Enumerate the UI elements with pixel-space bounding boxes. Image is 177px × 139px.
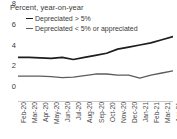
y-tick-label: 4 [2,42,16,50]
x-tick-label: Dec-20 [132,102,139,123]
chart-title: Percent, year-on-year [10,3,84,12]
y-tick-label: 0 [2,83,16,91]
legend-item-depreciated-lt-5-or-appreciated: Depreciated < 5% or appreciated [26,23,138,33]
y-axis: 8 6 4 2 0 [0,0,16,119]
series-line-depreciated-lt-5 [18,71,173,78]
legend-item-depreciated-gt-5: Depreciated > 5% [26,13,138,23]
legend-label: Depreciated < 5% or appreciated [35,24,138,33]
series-line-depreciated-gt-5 [18,37,173,60]
x-tick-label: Mar-21 [165,102,172,123]
x-tick-label: Feb-21 [154,102,161,123]
x-tick-label: Mar-20 [32,102,39,123]
x-tick-label: Oct-20 [110,102,117,122]
x-tick-label: Feb-20 [21,102,28,123]
x-tick-label: Nov-20 [121,102,128,123]
x-tick-label: Apr-21 [176,102,177,122]
x-tick-label: Apr-20 [43,102,50,122]
x-tick-label: Jul-20 [76,102,83,120]
legend-label: Depreciated > 5% [35,14,91,23]
y-tick-label: 6 [2,21,16,29]
x-axis: Feb-20Mar-20Apr-20May-20Jun-20Jul-20Aug-… [18,102,173,139]
y-tick-label: 8 [2,0,16,8]
x-tick-label: Jan-21 [143,102,150,122]
chart-legend: Depreciated > 5% Depreciated < 5% or app… [26,13,138,33]
x-tick-label: Aug-20 [87,102,94,123]
chart-container: Percent, year-on-year Depreciated > 5% D… [0,0,177,139]
x-tick-label: May-20 [54,102,61,124]
series-lines [18,37,173,79]
legend-line-swatch-icon [26,18,33,19]
x-tick-label: Jun-20 [65,102,72,122]
legend-line-swatch-icon [26,28,33,29]
x-tick-label: Sep-20 [99,102,106,123]
y-tick-label: 2 [2,62,16,70]
